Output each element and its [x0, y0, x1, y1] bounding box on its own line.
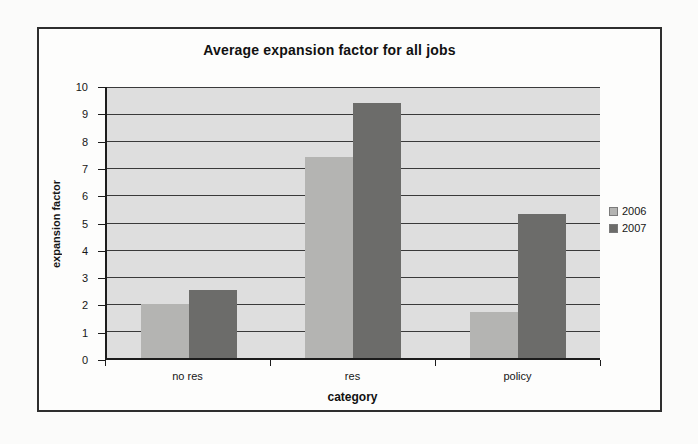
plot-area — [105, 87, 600, 360]
bar-2006-res — [305, 157, 353, 358]
y-tick-label-0: 0 — [82, 354, 88, 366]
y-tick-label-2: 2 — [82, 299, 88, 311]
legend-label-2007: 2007 — [622, 222, 646, 234]
y-tick-mark-9 — [98, 114, 105, 115]
y-tick-mark-3 — [98, 278, 105, 279]
y-tick-mark-6 — [98, 196, 105, 197]
y-tick-label-4: 4 — [82, 245, 88, 257]
bar-2007-policy — [518, 214, 566, 358]
bars-layer — [107, 87, 600, 358]
legend-swatch-2006 — [609, 207, 618, 216]
bar-2006-no-res — [141, 304, 189, 358]
legend-swatch-2007 — [609, 224, 618, 233]
chart-figure: Average expansion factor for all jobs ex… — [37, 27, 662, 412]
y-tick-label-9: 9 — [82, 108, 88, 120]
y-axis: 012345678910 — [39, 87, 105, 360]
y-tick-label-1: 1 — [82, 327, 88, 339]
y-tick-mark-2 — [98, 305, 105, 306]
y-tick-label-6: 6 — [82, 190, 88, 202]
x-tick-1 — [270, 360, 271, 366]
bar-group-policy — [436, 87, 600, 358]
y-tick-label-3: 3 — [82, 272, 88, 284]
x-label-policy: policy — [435, 370, 600, 382]
x-tick-0 — [105, 360, 106, 366]
y-tick-mark-7 — [98, 169, 105, 170]
x-tick-3 — [600, 360, 601, 366]
y-tick-mark-8 — [98, 142, 105, 143]
bar-2006-policy — [470, 312, 518, 358]
x-label-no-res: no res — [105, 370, 270, 382]
x-axis-labels: no resrespolicy — [105, 370, 600, 382]
y-tick-label-10: 10 — [76, 81, 88, 93]
y-tick-label-5: 5 — [82, 218, 88, 230]
y-tick-mark-10 — [98, 87, 105, 88]
y-tick-mark-5 — [98, 224, 105, 225]
y-tick-label-8: 8 — [82, 136, 88, 148]
legend-label-2006: 2006 — [622, 205, 646, 217]
bar-2007-res — [353, 103, 401, 358]
y-tick-mark-0 — [98, 360, 105, 361]
x-axis-ticks — [105, 360, 600, 366]
legend-item-2007: 2007 — [609, 222, 646, 234]
chart-title: Average expansion factor for all jobs — [39, 42, 620, 58]
x-tick-2 — [435, 360, 436, 366]
x-label-res: res — [270, 370, 435, 382]
legend-item-2006: 2006 — [609, 205, 646, 217]
y-tick-label-7: 7 — [82, 163, 88, 175]
bar-group-no-res — [107, 87, 271, 358]
bar-group-res — [271, 87, 435, 358]
legend: 20062007 — [609, 205, 646, 234]
y-tick-mark-4 — [98, 251, 105, 252]
x-axis-title: category — [105, 390, 600, 404]
bar-2007-no-res — [189, 290, 237, 358]
y-tick-mark-1 — [98, 333, 105, 334]
